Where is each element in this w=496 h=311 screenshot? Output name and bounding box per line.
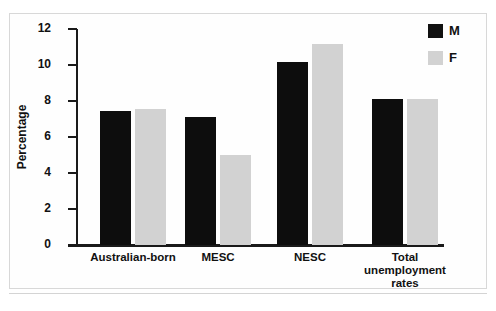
x-label-total-line3: rates bbox=[355, 277, 455, 290]
bar-total-f[interactable] bbox=[407, 99, 438, 245]
caption-divider bbox=[9, 293, 487, 294]
x-label-total-line1: Total bbox=[355, 251, 455, 264]
bars-layer bbox=[0, 0, 496, 245]
legend-item-m[interactable]: M bbox=[428, 24, 480, 38]
figure-container: Percentage 12 10 8 6 4 2 bbox=[0, 0, 496, 311]
bar-australian-born-m[interactable] bbox=[100, 111, 131, 245]
bar-nesc-m[interactable] bbox=[277, 62, 308, 245]
legend-swatch-f-icon bbox=[428, 51, 443, 65]
bar-mesc-m[interactable] bbox=[185, 117, 216, 245]
x-label-total-line2: unemployment bbox=[355, 264, 455, 277]
bar-australian-born-f[interactable] bbox=[135, 109, 166, 245]
plot-area: Percentage 12 10 8 6 4 2 bbox=[0, 0, 496, 311]
bar-total-m[interactable] bbox=[372, 99, 403, 245]
x-label-total: Total unemployment rates bbox=[355, 251, 455, 290]
x-label-mesc: MESC bbox=[178, 251, 258, 264]
bar-nesc-f[interactable] bbox=[312, 44, 343, 245]
bar-mesc-f[interactable] bbox=[220, 155, 251, 245]
legend-item-f[interactable]: F bbox=[428, 51, 480, 65]
x-label-nesc: NESC bbox=[270, 251, 350, 264]
figure-caption bbox=[0, 296, 496, 311]
legend: M F bbox=[428, 24, 480, 78]
legend-label-f: F bbox=[449, 51, 457, 65]
x-label-australian-born: Australian-born bbox=[73, 251, 193, 264]
legend-label-m: M bbox=[449, 24, 460, 38]
legend-swatch-m-icon bbox=[428, 24, 443, 38]
